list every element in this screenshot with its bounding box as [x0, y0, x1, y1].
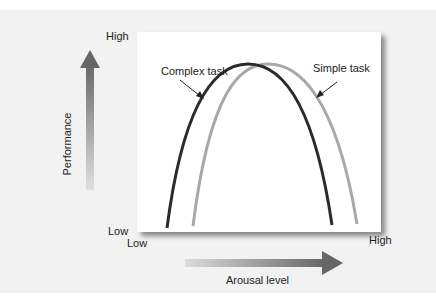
y-axis-title: Performance [61, 113, 73, 176]
simple-task-label: Simple task [313, 62, 370, 74]
y-axis-high-label: High [106, 30, 129, 42]
complex-task-pointer-icon [180, 80, 204, 99]
simple-task-curve [193, 64, 357, 226]
x-axis-high-label: High [369, 234, 392, 246]
simple-task-pointer-icon [316, 82, 337, 98]
arousal-arrow-icon [185, 251, 343, 275]
complex-task-curve [167, 64, 332, 228]
performance-arrow-icon [80, 50, 100, 190]
complex-task-label: Complex task [161, 65, 228, 77]
y-axis-low-label: Low [108, 225, 128, 237]
x-axis-low-label: Low [127, 237, 147, 249]
x-axis-title: Arousal level [226, 274, 289, 286]
